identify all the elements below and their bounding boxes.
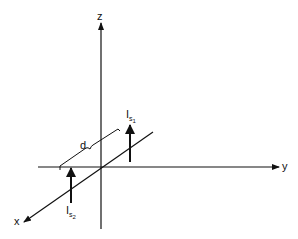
x-axis-label: x [14,216,20,227]
y-axis-label: y [282,161,288,172]
distance-label: d [80,140,86,151]
diagram-canvas [0,0,298,239]
current-source-1-label: Is1 [126,109,136,125]
current-source-2-label: Is2 [66,205,76,221]
z-axis-label: z [97,11,103,22]
distance-bracket [60,129,120,170]
x-axis [24,132,153,222]
